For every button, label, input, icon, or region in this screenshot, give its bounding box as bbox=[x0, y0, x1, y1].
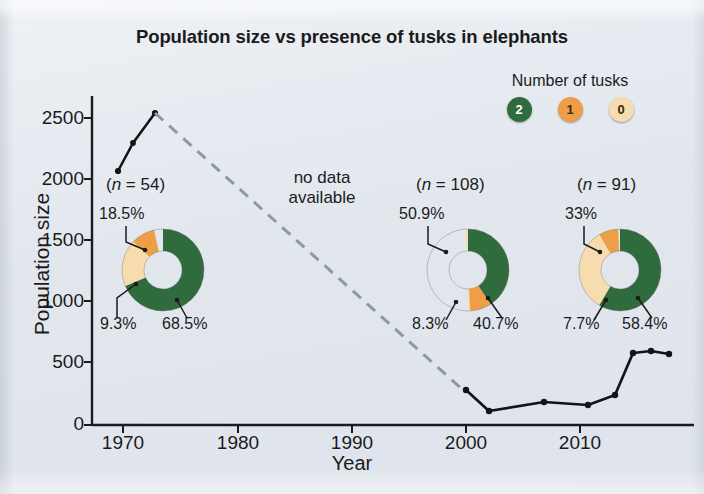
data-point bbox=[648, 348, 654, 354]
series-recent-solid bbox=[463, 348, 672, 414]
series-nodata-dashed bbox=[155, 113, 463, 390]
donut-3-n-label: (n = 91) bbox=[577, 175, 636, 195]
axis-spines bbox=[84, 96, 694, 433]
plot-svg bbox=[0, 0, 704, 494]
donut-chart-3 bbox=[579, 226, 661, 320]
donut-3-pct-0-tusks: 33% bbox=[565, 205, 597, 223]
data-point bbox=[115, 168, 121, 174]
donut-1-pct-2-tusks: 68.5% bbox=[162, 315, 207, 333]
series-early-solid bbox=[115, 110, 158, 174]
no-data-annotation: no data available bbox=[262, 168, 382, 209]
data-point bbox=[666, 351, 672, 357]
donut-3-pct-1-tusk: 7.7% bbox=[563, 315, 599, 333]
donut-2-pct-0-tusks: 50.9% bbox=[399, 205, 444, 223]
data-point bbox=[463, 387, 469, 393]
data-point bbox=[612, 392, 618, 398]
donut-2-pct-1-tusk: 8.3% bbox=[412, 315, 448, 333]
data-point bbox=[585, 402, 591, 408]
donut-chart-1 bbox=[117, 226, 204, 318]
donut-1-n-label: (n = 54) bbox=[106, 175, 165, 195]
donut-2-n-label: (n = 108) bbox=[416, 175, 485, 195]
donut-2-pct-2-tusks: 40.7% bbox=[473, 315, 518, 333]
data-point bbox=[630, 350, 636, 356]
donut-1-pct-0-tusks: 18.5% bbox=[99, 205, 144, 223]
data-point bbox=[130, 140, 136, 146]
donut-1-pct-1-tusk: 9.3% bbox=[100, 315, 136, 333]
donut-chart-2 bbox=[427, 226, 509, 320]
figure-panel: Population size vs presence of tusks in … bbox=[0, 0, 704, 494]
no-data-line-1: no data bbox=[262, 168, 382, 188]
no-data-line-2: available bbox=[262, 188, 382, 208]
data-point bbox=[486, 408, 492, 414]
data-point bbox=[541, 399, 547, 405]
donut-3-pct-2-tusks: 58.4% bbox=[622, 315, 667, 333]
